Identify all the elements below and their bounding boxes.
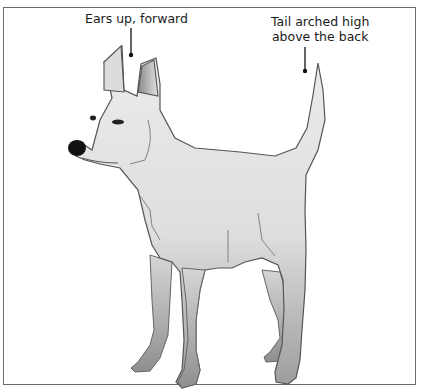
- far-legs: [131, 255, 292, 372]
- annotation-tail-leader: [303, 47, 307, 73]
- nose: [68, 140, 86, 156]
- annotation-ears-leader: [129, 28, 133, 57]
- eye-far: [90, 116, 96, 121]
- left-ear: [104, 46, 124, 92]
- dog-body: [72, 46, 325, 388]
- dog-illustration: [0, 0, 421, 390]
- eye-near: [112, 119, 124, 124]
